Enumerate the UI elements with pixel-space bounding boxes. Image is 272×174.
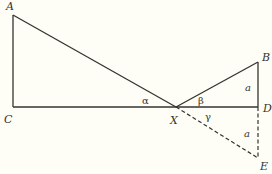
point-label-e: E <box>259 160 268 173</box>
geometry-diagram: A C X B D E α β γ a a <box>0 0 272 174</box>
side-label-bd: a <box>245 82 251 93</box>
point-label-x: X <box>169 114 179 127</box>
segment-ax <box>13 15 176 107</box>
point-label-b: B <box>261 51 270 64</box>
point-label-c: C <box>4 113 13 126</box>
point-label-d: D <box>262 102 272 115</box>
point-label-a: A <box>5 0 14 13</box>
angle-label-gamma: γ <box>205 111 211 122</box>
diagram-svg: A C X B D E α β γ a a <box>0 0 272 174</box>
angle-label-beta: β <box>198 95 204 106</box>
side-label-de: a <box>244 128 250 139</box>
angle-label-alpha: α <box>142 95 149 106</box>
